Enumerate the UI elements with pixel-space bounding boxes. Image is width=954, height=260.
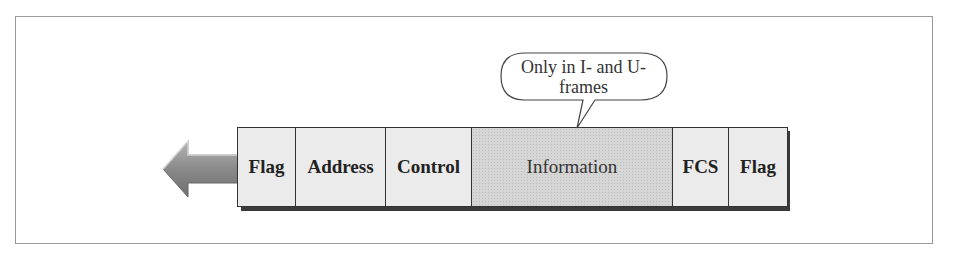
field-flag-end: Flag [729, 128, 787, 206]
callout-line-2: frames [500, 77, 667, 97]
callout-line-1: Only in I- and U- [500, 57, 667, 77]
left-arrow-icon [160, 138, 240, 200]
field-address: Address [296, 128, 386, 206]
field-control: Control [386, 128, 472, 206]
field-information: Information [472, 128, 673, 206]
field-flag-start: Flag [238, 128, 296, 206]
callout-text: Only in I- and U- frames [500, 57, 667, 97]
hdlc-frame: Flag Address Control Information FCS Fla… [237, 127, 788, 207]
field-fcs: FCS [673, 128, 729, 206]
